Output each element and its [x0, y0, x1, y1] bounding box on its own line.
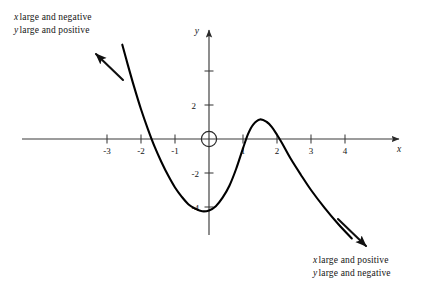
y-axis-label: y [194, 26, 200, 36]
x-tick-label-4: 4 [343, 146, 348, 156]
annotation-lower-right-line1-text: large and positive [319, 255, 389, 265]
annotation-upper-left: xlarge and negative ylarge and positive [14, 11, 92, 36]
x-tick-label--1: -1 [171, 146, 179, 156]
right-tail-arrow [338, 219, 366, 246]
axes-group [22, 30, 399, 235]
annotation-lower-right-line2: ylarge and negative [313, 267, 391, 280]
left-tail-arrow [96, 54, 123, 80]
annotation-lower-right-line1: xlarge and positive [313, 254, 391, 267]
y-tick-label--2: -2 [192, 169, 200, 179]
x-tick-label--2: -2 [137, 146, 145, 156]
x-tick-label-2: 2 [275, 146, 280, 156]
annotation-upper-left-line2: ylarge and positive [14, 24, 92, 37]
x-tick-label--3: -3 [103, 146, 111, 156]
x-tick-label-3: 3 [309, 146, 314, 156]
annotation-upper-left-line1: xlarge and negative [14, 11, 92, 24]
annotation-upper-left-line2-text: large and positive [20, 25, 90, 35]
annotation-lower-right-line2-text: large and negative [319, 268, 391, 278]
y-tick-label-2: 2 [192, 101, 197, 111]
tick-labels-group: -3 -2 -1 1 2 3 4 2 -2 -4 [103, 101, 348, 213]
x-axis-label: x [396, 144, 402, 154]
annotation-upper-left-line1-text: large and negative [20, 12, 92, 22]
polynomial-curve [122, 45, 351, 239]
annotation-lower-right: xlarge and positive ylarge and negative [313, 254, 391, 279]
